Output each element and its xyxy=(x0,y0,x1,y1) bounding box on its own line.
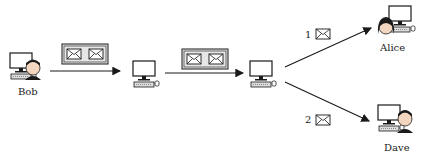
relay1-computer-icon xyxy=(133,61,159,87)
recipient1-computer-icon xyxy=(378,6,415,34)
recipient2-computer-icon xyxy=(378,105,413,133)
edge-number-1: 1 xyxy=(305,29,311,40)
envelope-bundle-icon xyxy=(62,44,108,64)
envelope-bundle-icon xyxy=(182,49,228,69)
edge-number-2: 2 xyxy=(305,114,311,125)
recipient2-label: Dave xyxy=(384,142,410,153)
envelope-icon xyxy=(316,115,330,125)
sender-label: Bob xyxy=(18,86,38,97)
envelope-icon xyxy=(316,29,330,39)
sender-computer-icon xyxy=(10,53,41,80)
recipient1-label: Alice xyxy=(380,42,405,53)
network-diagram xyxy=(0,0,421,159)
relay2-computer-icon xyxy=(250,61,276,87)
